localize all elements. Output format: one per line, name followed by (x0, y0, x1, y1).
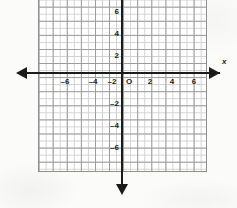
y-tick-label: –6 (105, 144, 119, 152)
x-tick-label: –4 (89, 78, 98, 86)
x-tick-label: 6 (192, 78, 196, 86)
y-tick-label: –2 (105, 100, 119, 108)
x-axis-arrow-left-icon (16, 67, 27, 79)
y-tick-label: 4 (105, 30, 119, 38)
x-tick-label: 2 (148, 78, 152, 86)
y-axis-arrow-down-icon (116, 184, 128, 195)
x-tick-label: –2 (108, 78, 117, 86)
y-tick-label: –4 (105, 122, 119, 130)
y-tick-label: 6 (105, 8, 119, 16)
y-tick-label: 2 (105, 52, 119, 60)
x-tick-label: –6 (61, 78, 70, 86)
x-axis-arrow-right-icon (209, 67, 220, 79)
x-tick-label: 4 (170, 78, 174, 86)
x-axis-label: x (222, 58, 226, 66)
origin-label: O (126, 78, 132, 86)
y-axis-line (121, 0, 123, 185)
coordinate-plane-figure: –6–4–2246 642–2–4–6 O x (0, 0, 237, 208)
